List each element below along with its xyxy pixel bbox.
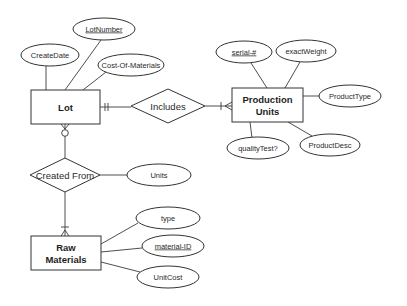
crows-foot-icon <box>65 124 69 129</box>
zero-mark-icon <box>62 130 69 137</box>
attribute-producttype[interactable]: ProductType <box>319 85 381 107</box>
crows-foot-icon <box>225 102 232 106</box>
connector-cost-of-materials <box>83 72 106 90</box>
entity-production-units[interactable]: Production Units <box>232 88 303 122</box>
connector-productdesc <box>288 122 312 136</box>
attribute-label: qualityTest? <box>238 144 278 153</box>
entity-label: Lot <box>58 102 74 113</box>
relationship-label: Created From <box>36 170 95 181</box>
attribute-qualitytest[interactable]: qualityTest? <box>227 137 289 159</box>
entity-label-line1: Production <box>242 94 292 105</box>
attribute-unitcost[interactable]: UnitCost <box>137 266 199 288</box>
attribute-material-id[interactable]: material-ID <box>142 235 204 257</box>
crows-foot-icon <box>65 230 69 236</box>
crows-foot-icon <box>61 230 65 236</box>
entity-lot[interactable]: Lot <box>31 90 100 124</box>
relationship-created-from[interactable]: Created From <box>30 158 100 192</box>
entity-label-line2: Materials <box>45 254 86 265</box>
attribute-label: LotNumber <box>85 25 123 34</box>
attribute-units[interactable]: Units <box>127 164 191 186</box>
attribute-createdate[interactable]: CreateDate <box>21 44 79 66</box>
entity-label-line2: Units <box>256 106 280 117</box>
attribute-label: UnitCost <box>154 273 184 282</box>
connector-exactweight <box>285 62 300 88</box>
crows-foot-icon <box>225 106 232 110</box>
attribute-label: Cost-Of-Materials <box>102 61 161 70</box>
attribute-label: material-ID <box>155 242 192 251</box>
attribute-label: serial-# <box>232 48 257 57</box>
attribute-label: type <box>161 214 175 223</box>
attribute-cost-of-materials[interactable]: Cost-Of-Materials <box>98 54 164 76</box>
entity-label-line1: Raw <box>56 242 76 253</box>
relationship-label: Includes <box>150 101 186 112</box>
connector-serial <box>251 63 267 88</box>
connector-material-id <box>101 248 142 252</box>
attribute-type[interactable]: type <box>136 207 200 229</box>
attribute-label: ProductType <box>329 92 371 101</box>
attribute-serial[interactable]: serial-# <box>216 41 272 63</box>
attribute-label: exactWeight <box>285 47 327 56</box>
crows-foot-icon <box>61 124 65 129</box>
er-diagram: Lot Production Units Raw Materials Inclu… <box>0 0 407 306</box>
attribute-label: CreateDate <box>31 51 69 60</box>
connector-qualitytest <box>250 122 252 138</box>
attribute-label: Units <box>150 171 167 180</box>
relationship-includes[interactable]: Includes <box>131 89 205 123</box>
attribute-lotnumber[interactable]: LotNumber <box>73 18 135 40</box>
attribute-productdesc[interactable]: ProductDesc <box>300 134 360 156</box>
attribute-label: ProductDesc <box>309 141 352 150</box>
attribute-exactweight[interactable]: exactWeight <box>276 40 336 62</box>
connector-type <box>101 223 138 244</box>
connector-unitcost <box>101 262 140 272</box>
entity-raw-materials[interactable]: Raw Materials <box>31 236 101 270</box>
